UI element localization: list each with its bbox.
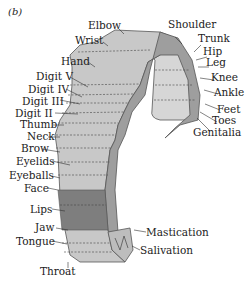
label-leg: Leg bbox=[206, 57, 226, 68]
label-jaw: Jaw bbox=[35, 222, 54, 233]
label-knee: Knee bbox=[211, 72, 238, 83]
label-eyeballs: Eyeballs bbox=[9, 170, 54, 181]
label-digit-iv: Digit IV bbox=[28, 84, 69, 95]
label-tongue: Tongue bbox=[16, 236, 55, 247]
label-neck: Neck bbox=[27, 131, 55, 142]
label-digit-iii: Digit III bbox=[22, 96, 64, 107]
label-elbow: Elbow bbox=[88, 20, 121, 31]
label-lips: Lips bbox=[30, 204, 52, 215]
label-trunk: Trunk bbox=[198, 33, 230, 44]
label-hand: Hand bbox=[61, 56, 90, 67]
label-ankle: Ankle bbox=[214, 87, 244, 98]
lips-band bbox=[58, 190, 108, 230]
label-thumb: Thumb bbox=[20, 119, 57, 130]
label-eyelids: Eyelids bbox=[16, 156, 55, 167]
label-mastication: Mastication bbox=[146, 227, 209, 238]
label-shoulder: Shoulder bbox=[168, 19, 216, 30]
label-brow: Brow bbox=[21, 143, 49, 154]
label-toes: Toes bbox=[212, 115, 236, 126]
label-digit-v: Digit V bbox=[36, 71, 73, 82]
label-throat: Throat bbox=[40, 266, 76, 277]
label-genitalia: Genitalia bbox=[193, 127, 241, 138]
homunculus-diagram: (b) bbox=[0, 0, 251, 281]
label-salivation: Salivation bbox=[140, 245, 193, 256]
label-wrist: Wrist bbox=[75, 35, 103, 46]
label-face: Face bbox=[24, 183, 49, 194]
